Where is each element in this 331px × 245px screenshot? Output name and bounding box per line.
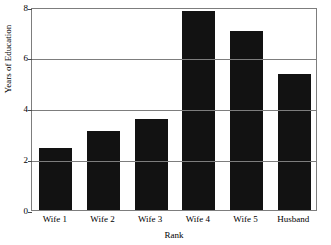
- plot-area: [31, 8, 317, 211]
- bar: [230, 31, 263, 210]
- y-axis-tick-label: 2: [14, 156, 28, 165]
- bar: [39, 148, 72, 210]
- x-axis-tick-label: Husband: [269, 213, 317, 225]
- gridline: [32, 161, 316, 162]
- y-axis-tick-label: 8: [14, 4, 28, 13]
- bar: [278, 74, 311, 210]
- bar: [87, 131, 120, 210]
- x-axis-tick-labels: Wife 1Wife 2Wife 3Wife 4Wife 5Husband: [31, 213, 317, 229]
- x-axis-tick-label: Wife 1: [31, 213, 79, 225]
- x-axis-tick-label: Wife 5: [222, 213, 270, 225]
- gridline: [32, 59, 316, 60]
- gridline: [32, 110, 316, 111]
- y-axis-tick-label: 4: [14, 105, 28, 114]
- x-axis-tick-label: Wife 4: [174, 213, 222, 225]
- y-axis-tick-mark: [28, 9, 32, 10]
- y-axis-tick-label: 6: [14, 54, 28, 63]
- y-axis-tick-labels: 02468: [10, 0, 28, 245]
- y-axis-tick-mark: [28, 161, 32, 162]
- x-axis-title: Rank: [31, 229, 317, 241]
- y-axis-tick-label: 0: [14, 207, 28, 216]
- y-axis-tick-mark: [28, 110, 32, 111]
- bar: [135, 119, 168, 210]
- bar-chart: Years of Education 02468 Wife 1Wife 2Wif…: [0, 0, 331, 245]
- y-axis-tick-mark: [28, 59, 32, 60]
- x-axis-tick-label: Wife 3: [126, 213, 174, 225]
- x-axis-tick-label: Wife 2: [79, 213, 127, 225]
